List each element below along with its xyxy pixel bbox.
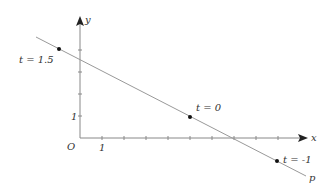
- point-marker-icon: [275, 159, 279, 163]
- point-label: t = -1: [283, 154, 312, 165]
- x-axis: x 1: [80, 132, 317, 153]
- origin-label: O: [67, 141, 75, 152]
- x-axis-label: x: [311, 132, 317, 143]
- y-axis: y 1: [71, 14, 91, 138]
- point-t-1-5: t = 1.5: [19, 47, 61, 65]
- line-p-label: p: [309, 172, 316, 183]
- y-axis-label: y: [84, 14, 91, 25]
- x-unit-label: 1: [99, 142, 105, 153]
- y-unit-label: 1: [71, 111, 77, 122]
- point-label: t = 1.5: [19, 54, 54, 65]
- point-marker-icon: [57, 47, 61, 51]
- point-marker-icon: [188, 115, 192, 119]
- point-t-0: t = 0: [188, 102, 222, 119]
- line-p: p: [36, 37, 316, 183]
- parametric-line-diagram: x 1 y 1 O p t = 1.5: [0, 0, 331, 192]
- point-label: t = 0: [196, 102, 222, 113]
